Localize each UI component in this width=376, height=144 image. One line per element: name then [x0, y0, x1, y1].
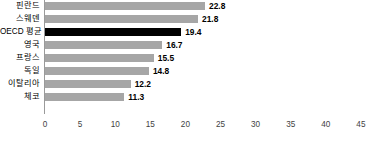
- category-label: 체코: [0, 91, 40, 104]
- x-axis: 051015202530354045: [0, 114, 376, 144]
- bar-chart: 핀란드 22.8 스웨덴 21.8 OECD 평균 19.4 영국 16.7 프…: [0, 0, 376, 144]
- category-label: 독일: [0, 65, 40, 78]
- category-label: 프랑스: [0, 52, 40, 65]
- x-axis-tick-label: 0: [33, 120, 57, 129]
- bar-row: 핀란드 22.8: [0, 0, 376, 13]
- bar-france: [45, 54, 154, 62]
- bar-value-label: 19.4: [185, 26, 201, 39]
- x-axis-tick-label: 30: [244, 120, 268, 129]
- bar-sweden: [45, 15, 198, 23]
- category-label: 핀란드: [0, 0, 40, 13]
- bar-row: 체코 11.3: [0, 91, 376, 104]
- x-axis-tick-label: 35: [279, 120, 303, 129]
- bar-germany: [45, 67, 149, 75]
- bar-row: 독일 14.8: [0, 65, 376, 78]
- x-axis-tick-label: 40: [314, 120, 338, 129]
- x-axis-tick-label: 45: [349, 120, 373, 129]
- bar-row: OECD 평균 19.4: [0, 26, 376, 39]
- bar-value-label: 22.8: [209, 0, 225, 13]
- bar-oecd-average: [45, 28, 181, 36]
- bar-row: 영국 16.7: [0, 39, 376, 52]
- bar-finland: [45, 2, 205, 10]
- bar-value-label: 12.2: [135, 78, 151, 91]
- x-axis-tick-label: 25: [209, 120, 233, 129]
- plot-area: 핀란드 22.8 스웨덴 21.8 OECD 평균 19.4 영국 16.7 프…: [0, 0, 376, 114]
- x-axis-tick-label: 5: [68, 120, 92, 129]
- bar-value-label: 16.7: [166, 39, 182, 52]
- bar-uk: [45, 41, 162, 49]
- bar-value-label: 21.8: [202, 13, 218, 26]
- category-label: 스웨덴: [0, 13, 40, 26]
- bar-value-label: 14.8: [153, 65, 169, 78]
- bar-row: 프랑스 15.5: [0, 52, 376, 65]
- bar-value-label: 15.5: [158, 52, 174, 65]
- category-label: 영국: [0, 39, 40, 52]
- bar-italy: [45, 80, 131, 88]
- bar-row: 이탈리아 12.2: [0, 78, 376, 91]
- bar-value-label: 11.3: [128, 91, 144, 104]
- bar-row: 스웨덴 21.8: [0, 13, 376, 26]
- bar-czech: [45, 93, 124, 101]
- x-axis-tick-label: 10: [103, 120, 127, 129]
- category-label: 이탈리아: [0, 78, 40, 91]
- x-axis-tick-label: 15: [138, 120, 162, 129]
- category-label: OECD 평균: [0, 26, 40, 39]
- x-axis-tick-label: 20: [173, 120, 197, 129]
